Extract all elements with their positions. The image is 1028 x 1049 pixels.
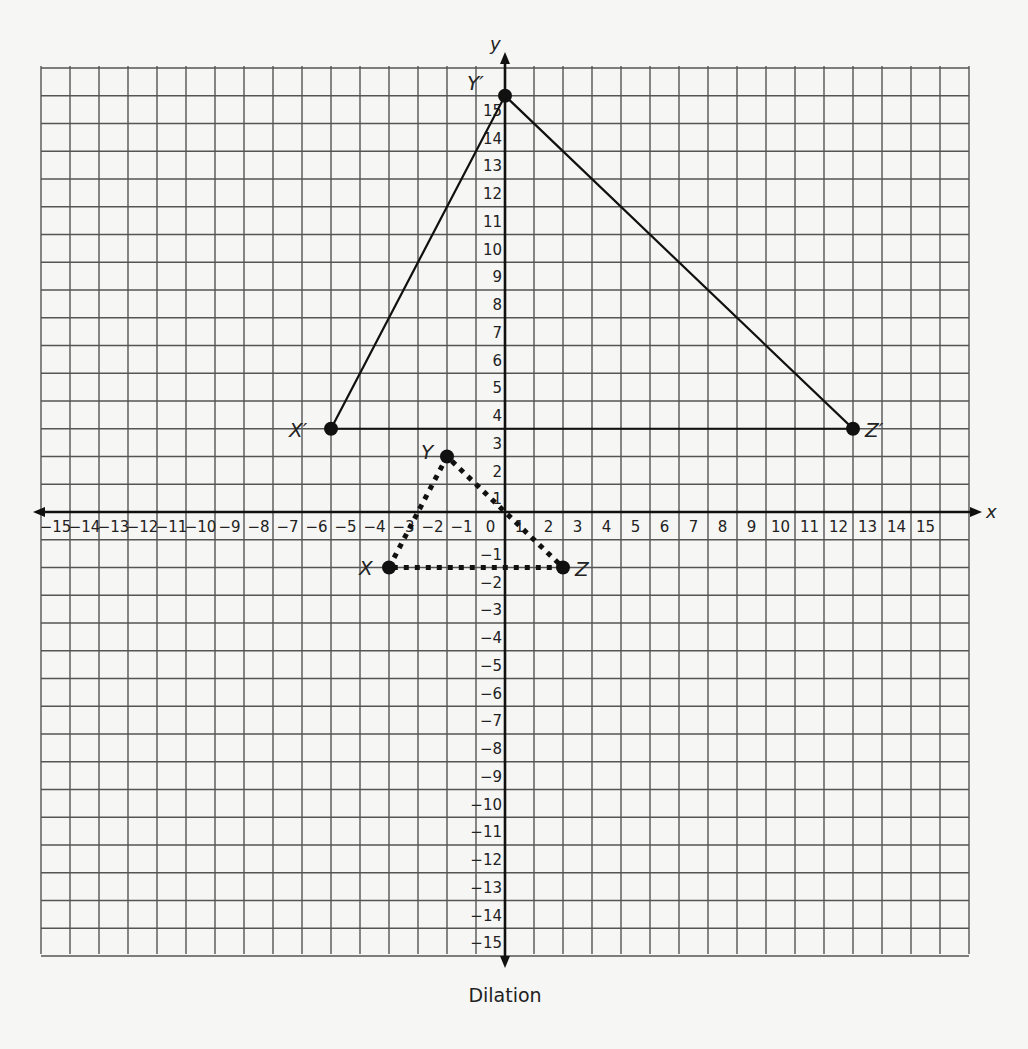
x-tick-label: 11 [800, 518, 819, 536]
y-tick-label: 6 [492, 352, 502, 370]
vertex-point [556, 561, 570, 575]
y-tick-label: −3 [480, 601, 502, 619]
x-tick-label: −12 [127, 518, 159, 536]
x-tick-label: −2 [421, 518, 443, 536]
y-axis-down-arrow-icon [500, 956, 510, 968]
y-tick-label: −9 [480, 768, 502, 786]
y-tick-label: −8 [480, 740, 502, 758]
x-tick-label: 8 [718, 518, 728, 536]
y-tick-label: −12 [470, 851, 502, 869]
x-tick-label: −13 [98, 518, 130, 536]
x-axis-label: x [985, 501, 997, 522]
x-tick-label: 15 [916, 518, 935, 536]
y-tick-label: −1 [480, 546, 502, 564]
vertex-label: Y′ [467, 71, 484, 95]
x-tick-label: 5 [631, 518, 641, 536]
y-tick-label: −15 [470, 934, 502, 952]
x-tick-label: 0 [486, 518, 496, 536]
vertex-point [846, 422, 860, 436]
x-tick-label: −11 [156, 518, 188, 536]
vertex-point [498, 89, 512, 103]
x-tick-label: 14 [887, 518, 906, 536]
x-tick-label: 7 [689, 518, 699, 536]
x-tick-label: −14 [69, 518, 101, 536]
y-tick-label: −5 [480, 657, 502, 675]
x-tick-label: −15 [40, 518, 72, 536]
vertex-point [324, 422, 338, 436]
y-tick-label: −14 [470, 907, 502, 925]
y-tick-label: −6 [480, 685, 502, 703]
x-tick-label: 1 [515, 518, 525, 536]
y-tick-label: 11 [483, 213, 502, 231]
x-tick-label: −8 [247, 518, 269, 536]
x-tick-label: 12 [829, 518, 848, 536]
x-tick-label: −9 [218, 518, 240, 536]
x-tick-label: 10 [771, 518, 790, 536]
y-tick-label: 5 [492, 379, 502, 397]
y-tick-label: 13 [483, 157, 502, 175]
y-tick-label: 12 [483, 185, 502, 203]
vertex-label: X′ [288, 418, 308, 442]
x-tick-label: −10 [185, 518, 217, 536]
x-tick-label: 2 [544, 518, 554, 536]
x-tick-label: 13 [858, 518, 877, 536]
vertex-label: Y [421, 440, 435, 464]
vertex-label: X [358, 556, 374, 580]
x-tick-label: −5 [334, 518, 356, 536]
y-tick-label: 4 [492, 407, 502, 425]
y-tick-label: −7 [480, 712, 502, 730]
y-tick-label: 15 [483, 102, 502, 120]
y-tick-label: −2 [480, 574, 502, 592]
y-tick-label: 8 [492, 296, 502, 314]
x-axis-right-arrow-icon [970, 507, 982, 517]
y-tick-label: 2 [492, 463, 502, 481]
y-axis-up-arrow-icon [500, 52, 510, 64]
y-tick-label: −13 [470, 879, 502, 897]
coordinate-plane: xy −15−14−13−12−11−10−9−8−7−6−5−4−3−2−10… [0, 0, 1028, 1049]
y-tick-label: −4 [480, 629, 502, 647]
x-tick-label: 3 [573, 518, 583, 536]
y-axis-label: y [489, 33, 501, 54]
x-tick-label: −1 [450, 518, 472, 536]
y-tick-label: 7 [492, 324, 502, 342]
vertex-point [440, 450, 454, 464]
x-axis-left-arrow-icon [33, 507, 45, 517]
vertex-label: Z′ [864, 418, 884, 442]
y-tick-label: −10 [470, 796, 502, 814]
x-tick-label: 9 [747, 518, 757, 536]
y-tick-label: 10 [483, 241, 502, 259]
figure-caption: Dilation [0, 984, 1010, 1006]
y-tick-label: 9 [492, 268, 502, 286]
tick-labels: −15−14−13−12−11−10−9−8−7−6−5−4−3−2−10123… [40, 102, 935, 953]
x-tick-label: −7 [276, 518, 298, 536]
x-tick-label: 6 [660, 518, 670, 536]
y-tick-label: −11 [470, 823, 502, 841]
x-tick-label: −6 [305, 518, 327, 536]
x-tick-label: 4 [602, 518, 612, 536]
x-tick-label: −4 [363, 518, 385, 536]
y-tick-label: 3 [492, 435, 502, 453]
vertex-label: Z [574, 557, 590, 581]
vertex-point [382, 561, 396, 575]
